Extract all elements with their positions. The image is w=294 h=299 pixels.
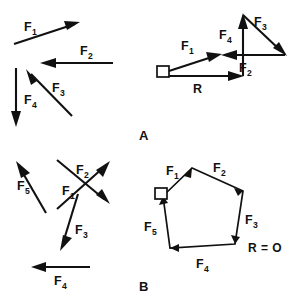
panel-b-closed-polygon: F 1 F 2 F 3 F 4 F 5 R = O (144, 161, 282, 274)
vector-f4-sum: F 4 (219, 13, 248, 76)
panel-label-a: A (139, 128, 149, 143)
label-f3-sum: F (254, 15, 262, 29)
label-f4: F (24, 93, 32, 107)
vector-figure: F 1 F 2 F 3 F 4 (0, 0, 294, 299)
label-f5-poly: F (144, 220, 152, 234)
label-f3-poly-sub: 3 (253, 220, 258, 230)
label-f3-sub: 3 (60, 88, 65, 98)
label-resultant-b: R = O (248, 241, 282, 255)
panel-a-given-vectors: F 1 F 2 F 3 F 4 (11, 20, 113, 127)
label-f1-poly: F (166, 164, 174, 178)
label-f2-poly-sub: 2 (221, 168, 226, 178)
arrowhead-f3 (231, 235, 240, 244)
vector-f1-sum: F 1 (169, 39, 222, 71)
label-f3: F (52, 81, 60, 95)
label-f5-sub: 5 (25, 186, 30, 196)
arrowhead-f1 (184, 168, 192, 178)
label-f1-b: F (62, 184, 70, 198)
label-f5-poly-sub: 5 (152, 227, 157, 237)
panel-label-b: B (139, 279, 148, 294)
vector-resultant-a: R (169, 71, 244, 96)
label-f1: F (24, 20, 32, 34)
label-f3-b: F (75, 223, 83, 237)
label-f1-sub: 1 (32, 27, 37, 37)
polygon-edge-labels: F 1 F 2 F 3 F 4 F 5 (144, 161, 258, 274)
figure-canvas: F 1 F 2 F 3 F 4 (0, 0, 294, 299)
label-f5: F (17, 179, 25, 193)
panel-b-given-vectors: F 5 F 1 F 2 F 3 F 4 (16, 160, 110, 291)
vector-f5-given: F 5 (16, 161, 46, 213)
label-f4-poly: F (196, 257, 204, 271)
label-f1-b-sub: 1 (70, 191, 75, 201)
label-f4-poly-sub: 4 (204, 264, 209, 274)
label-f2-sub: 2 (88, 51, 93, 61)
label-f4-sum: F (219, 28, 227, 42)
label-f1-sum: F (181, 39, 189, 53)
panel-a-vector-sum: F 1 F 2 F 3 F 4 R (157, 13, 287, 96)
label-f4-sum-sub: 4 (227, 35, 232, 45)
label-f2-b: F (76, 163, 84, 177)
label-f4-b-sub: 4 (62, 281, 67, 291)
label-f2-sum-sub: 2 (247, 68, 252, 78)
label-f4-sub: 4 (32, 100, 37, 110)
label-f3-sum-sub: 3 (262, 22, 267, 32)
arrowhead-f4 (170, 244, 179, 252)
vector-f2-given: F 2 (40, 44, 113, 68)
label-f3-poly: F (245, 213, 253, 227)
label-f2-b-sub: 2 (84, 170, 89, 180)
label-f4-b: F (54, 274, 62, 288)
label-f2: F (80, 44, 88, 58)
origin-marker-a (157, 66, 169, 77)
label-f2-poly: F (213, 161, 221, 175)
label-f1-poly-sub: 1 (174, 171, 179, 181)
vector-f1-given: F 1 (14, 20, 80, 44)
origin-marker-b (155, 188, 167, 199)
label-f3-b-sub: 3 (83, 230, 88, 240)
label-f1-sum-sub: 1 (189, 46, 194, 56)
vector-f4-given-b: F 4 (31, 262, 90, 291)
vector-f3-sum: F 3 (243, 15, 287, 56)
label-resultant-a: R (193, 82, 202, 96)
